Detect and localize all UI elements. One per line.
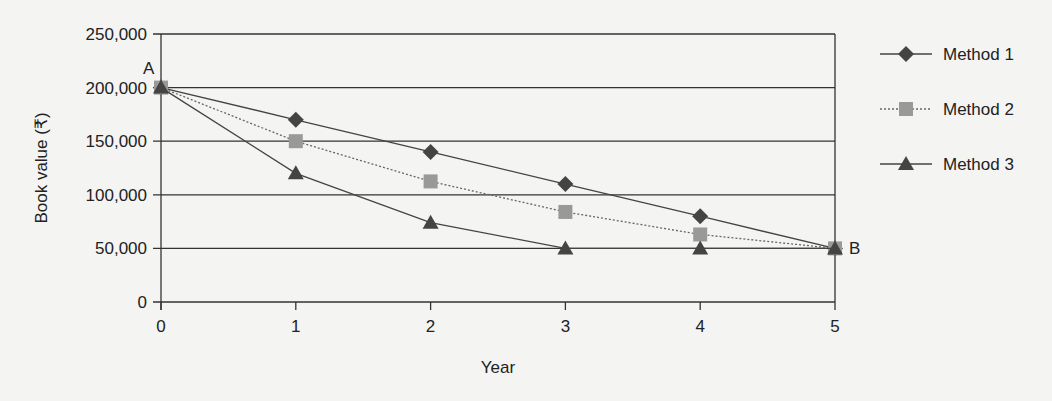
point-annotation: A: [143, 59, 155, 78]
x-tick-label: 1: [291, 317, 300, 336]
y-tick-label: 250,000: [86, 25, 147, 44]
square-marker-icon: [424, 174, 438, 188]
x-tick-label: 0: [156, 317, 165, 336]
x-tick-label: 3: [561, 317, 570, 336]
y-tick-label: 50,000: [95, 239, 147, 258]
y-tick-label: 100,000: [86, 186, 147, 205]
series-lines: [153, 80, 843, 257]
triangle-marker-icon: [692, 240, 708, 254]
triangle-marker-icon: [288, 165, 304, 179]
triangle-marker-icon: [423, 215, 439, 229]
legend-label: Method 2: [943, 100, 1014, 119]
book-value-chart: 050,000100,000150,000200,000250,00001234…: [0, 0, 1052, 401]
y-tick-label: 0: [138, 293, 147, 312]
legend: Method 1Method 2Method 3: [880, 45, 1014, 174]
x-tick-label: 4: [695, 317, 704, 336]
triangle-marker-icon: [898, 156, 914, 170]
point-annotation: B: [849, 239, 860, 258]
x-tick-label: 2: [426, 317, 435, 336]
y-tick-label: 200,000: [86, 79, 147, 98]
axes: 050,000100,000150,000200,000250,00001234…: [86, 25, 861, 336]
diamond-marker-icon: [557, 176, 573, 192]
grid-lines: [153, 34, 835, 302]
legend-label: Method 1: [943, 45, 1014, 64]
diamond-marker-icon: [692, 208, 708, 224]
x-tick-label: 5: [830, 317, 839, 336]
square-marker-icon: [693, 227, 707, 241]
square-marker-icon: [558, 205, 572, 219]
series-line: [161, 88, 835, 249]
square-marker-icon: [899, 102, 913, 116]
diamond-marker-icon: [288, 112, 304, 128]
y-tick-label: 150,000: [86, 132, 147, 151]
diamond-marker-icon: [423, 144, 439, 160]
legend-label: Method 3: [943, 155, 1014, 174]
square-marker-icon: [289, 134, 303, 148]
x-axis-label: Year: [481, 358, 516, 377]
y-axis-label: Book value (₹): [32, 112, 51, 223]
diamond-marker-icon: [898, 46, 914, 62]
